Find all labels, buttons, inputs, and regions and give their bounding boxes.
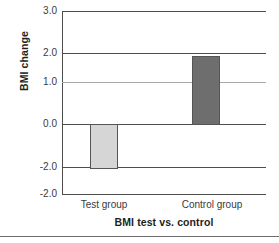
x-category-label-control-group: Control group — [158, 199, 266, 210]
gridline-3-0 — [62, 11, 266, 12]
x-axis-title: BMI test vs. control — [62, 216, 266, 228]
gridline-neg-2-0 — [62, 194, 266, 195]
y-axis-tick-labels: 3.0 2.0 1.0 0.0 -2.0 -2.0 — [12, 11, 57, 194]
bar-control-group — [192, 56, 220, 125]
gridline-2-0 — [62, 53, 266, 54]
bmi-change-bar-chart: BMI change 3.0 2.0 1.0 0.0 -2.0 -2.0 Tes… — [0, 0, 279, 243]
bottom-divider — [0, 236, 279, 237]
y-tick-label: 2.0 — [17, 47, 57, 58]
gridline-1-0 — [62, 82, 266, 83]
y-tick-label: 1.0 — [17, 76, 57, 87]
bar-test-group — [90, 124, 118, 169]
y-tick-label: -2.0 — [17, 188, 57, 199]
y-tick-label: 0.0 — [17, 118, 57, 129]
plot-area — [62, 11, 266, 194]
x-category-label-test-group: Test group — [58, 199, 150, 210]
y-tick-label: 3.0 — [17, 5, 57, 16]
y-tick-label: -2.0 — [17, 161, 57, 172]
